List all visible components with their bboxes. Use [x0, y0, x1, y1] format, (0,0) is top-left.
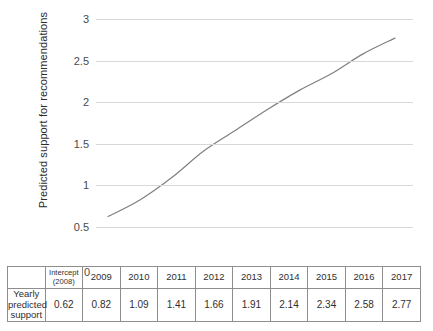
y-tick-label-3: 3: [83, 14, 89, 25]
row-label-line-1: Yearly predicted: [8, 289, 45, 310]
header-text: 2011: [158, 272, 195, 283]
table-corner-cell: [8, 267, 46, 289]
y-tick-label-1: 1: [83, 180, 89, 191]
table-value-cell-6: 2.14: [270, 289, 308, 322]
table-value-cell-5: 1.91: [233, 289, 271, 322]
header-text: 2010: [121, 272, 158, 283]
gridline-1.5: [96, 144, 413, 145]
series-path-yearly-predicted-support: [108, 38, 395, 216]
table-header-cell-0: Intercept(2008): [45, 267, 83, 289]
table-header-cell-9: 2017: [383, 267, 421, 289]
table-header-cell-2: 2010: [120, 267, 158, 289]
header-text: 2017: [383, 272, 420, 283]
line-chart-figure: Predicted support for recommendations 32…: [0, 0, 433, 265]
table-value-cell-7: 2.34: [308, 289, 346, 322]
table-header-cell-7: 2015: [308, 267, 346, 289]
gridline-3: [96, 19, 413, 20]
row-label-line-2: support: [8, 310, 45, 321]
table-header-cell-5: 2013: [233, 267, 271, 289]
table-value-cell-0: 0.62: [45, 289, 83, 322]
table-header-cell-4: 2012: [195, 267, 233, 289]
row-label-cell: Yearly predicted support: [8, 289, 46, 322]
header-text: 2016: [346, 272, 383, 283]
predicted-support-table: Intercept(2008)2009201020112012201320142…: [7, 266, 421, 322]
table-value-cell-4: 1.66: [195, 289, 233, 322]
table-header-cell-8: 2016: [345, 267, 383, 289]
table-value-cell-9: 2.77: [383, 289, 421, 322]
y-tick-label-0.5: 0.5: [74, 221, 89, 232]
table-row: Yearly predicted support 0.620.821.091.4…: [8, 289, 421, 322]
table-header-cell-3: 2011: [158, 267, 196, 289]
table-header-cell-6: 2014: [270, 267, 308, 289]
y-tick-label-0: 0: [84, 267, 90, 278]
header-text: 2013: [233, 272, 270, 283]
data-table-container: Intercept(2008)2009201020112012201320142…: [7, 266, 421, 322]
table-value-cell-3: 1.41: [158, 289, 196, 322]
header-text: 2012: [196, 272, 233, 283]
table-value-cell-8: 2.58: [345, 289, 383, 322]
gridline-2.5: [96, 61, 413, 62]
y-axis-title: Predicted support for recommendations: [37, 10, 49, 210]
y-tick-label-2.5: 2.5: [74, 55, 89, 66]
series-line-chart: [96, 0, 413, 265]
gridline-1: [96, 185, 413, 186]
gridline-0.5: [96, 227, 413, 228]
plot-area: 32.521.510.50: [96, 0, 413, 265]
table-value-cell-2: 1.09: [120, 289, 158, 322]
header-subtext: (2008): [46, 278, 83, 287]
header-text: 2015: [308, 272, 345, 283]
table-value-cell-1: 0.82: [83, 289, 121, 322]
y-tick-label-2: 2: [83, 97, 89, 108]
y-tick-label-1.5: 1.5: [74, 138, 89, 149]
header-text: 2014: [271, 272, 308, 283]
gridline-2: [96, 102, 413, 103]
table-header-row: Intercept(2008)2009201020112012201320142…: [8, 267, 421, 289]
